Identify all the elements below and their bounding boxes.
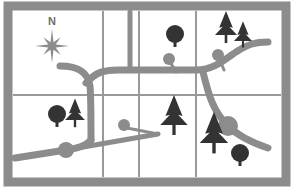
map-illustration: N [0,0,294,192]
tree-pine-south-central-trunk [172,125,175,135]
tree-round-north-central-canopy [166,25,184,43]
trail-marker-south-central-head [118,119,130,131]
tree-pine-northeast-large-trunk [225,35,228,43]
trail-marker-north-central-head [163,53,175,65]
compass-north-label: N [48,15,56,27]
tree-pine-southeast-trunk [212,143,215,153]
junction-node-southwest [58,142,74,158]
tree-round-southeast-canopy [231,144,249,162]
tree-pine-northeast-small-trunk [242,41,244,48]
tree-round-southwest-canopy [48,105,66,123]
tree-pine-southwest-trunk [74,120,76,127]
trail-marker-northeast-head [212,49,224,61]
map-canvas: N [0,0,294,192]
